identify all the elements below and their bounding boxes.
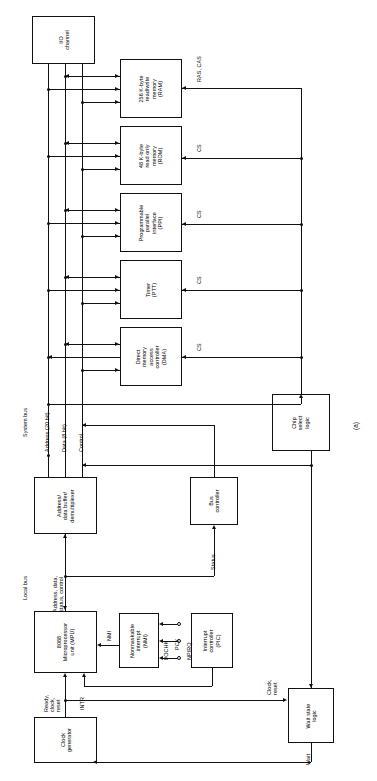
block-mpu-8088: 8088 Microprocessor unit (MPU) [34,611,97,673]
iochk-terminal [177,656,181,660]
nmi-wire [101,645,119,646]
timer-address-wire [48,290,120,291]
label-bus-data: Data (8 bit) [61,424,67,452]
rom-data-arrow-right [115,141,119,145]
npirq-wire [163,624,177,625]
block-chip-select-logic-label: Chip select logic [291,415,310,430]
rom-control-tap [81,168,84,171]
ppi-address-arrow [115,221,119,225]
block-bus-controller: Bus controller [190,477,238,525]
block-ppi: Programmable parallel interface (PPI) [120,193,182,252]
cs-rom-wire [182,158,301,159]
cs-timer-arrow [182,288,186,292]
bus-line-control [82,64,83,477]
ram-control-arrow [115,100,119,104]
rom-control-arrow [115,167,119,171]
dma-data-tap [64,343,67,346]
npirq-arrow [159,622,163,626]
timer-data-wire [65,277,120,278]
label-intr: INTR [79,697,85,710]
label-local-bus: Local bus [22,576,28,600]
label-bus-control: Control [78,434,84,452]
dma-control-tap [81,369,84,372]
rom-data-wire [65,143,120,144]
block-diagram-figure: I/O channel 256 K-byte read/write memory… [0,0,377,781]
status-wire-horizontal [65,576,214,577]
block-timer-label: Timer (PTT) [145,282,158,296]
rom-address-tap [47,155,50,158]
rom-control-wire [82,169,120,170]
clock-to-mpu-arrow [63,673,67,677]
ppi-address-tap [47,222,50,225]
cs-dma-arrow [182,355,186,359]
chip-select-trunk [301,88,302,394]
clock-reset-wire [65,700,284,701]
dma-address-wire [48,357,120,358]
ram-address-wire [48,89,120,90]
rom-data-tap [64,142,67,145]
label-wait: Wait [305,754,311,765]
label-bus-address: Address (20 bit) [44,412,50,452]
ram-control-wire [82,102,120,103]
label-local-bus-lines: Address, data, status, control [52,576,64,612]
label-cs-timer: CS [196,276,202,284]
bus-controller-control-arrow [82,423,86,427]
dma-data-wire [65,344,120,345]
cs-dma-tap [300,356,303,359]
dma-control-wire [82,370,120,371]
intr-wire [84,686,212,687]
label-status: Status [210,554,216,570]
buffer-leg-address [48,455,49,477]
ras-cas-wire [182,88,301,89]
address-to-chip-select-tap [47,403,50,406]
ppi-data-tap [64,209,67,212]
ppi-data-arrow-right [115,208,119,212]
ram-control-tap [81,101,84,104]
ppi-control-arrow [115,234,119,238]
cs-rom-tap [300,157,303,160]
dma-data-arrow-right [115,342,119,346]
io-channel-leg-data [65,64,66,68]
block-nmi: Nonmaskable interrupt (NMI) [119,613,159,668]
wait-logic-input-arrow [309,684,313,688]
label-nmi: NMI [106,631,112,641]
cs-timer-wire [182,290,301,291]
wait-arrow [93,760,97,764]
block-dma-label: Direct memory access controller (DMA) [135,345,167,368]
intr-leg-to-mpu [84,677,85,686]
io-channel-leg-control [82,64,83,68]
figure-caption: (a) [352,422,359,430]
block-wait-state-logic: Wait state logic [288,688,334,743]
control-to-wait-arrow [82,463,86,467]
status-arrow [212,525,216,529]
block-io-channel-label: I/O channel [57,30,70,50]
cs-timer-tap [300,289,303,292]
ras-cas-arrow [182,86,186,90]
ppi-control-wire [82,236,120,237]
intr-arrow [82,673,86,677]
block-bus-controller-label: Bus controller [208,489,221,512]
cs-ppi-tap [300,223,303,226]
label-iochk: I/OCHK [163,641,169,660]
rom-address-wire [48,156,120,157]
timer-control-arrow [115,301,119,305]
nmi-arrow [97,643,101,647]
wait-wire [97,762,311,763]
ram-address-tap [47,88,50,91]
label-ready-clock-reset: Ready, clock, reset [43,695,62,712]
clock-to-mpu-wire [65,677,66,717]
timer-data-tap [64,276,67,279]
buffer-leg-data [65,457,66,477]
rom-address-arrow [115,154,119,158]
block-rom: 48 K-byte read only memory (ROM) [120,126,182,185]
buffer-leg-control [82,457,83,477]
block-ram: 256 K-byte read/write memory (RAM) [120,59,182,118]
timer-address-tap [47,289,50,292]
local-bus-to-buffer-arrow [63,534,67,538]
local-bus-line [65,534,66,611]
ram-data-arrow-right [115,74,119,78]
block-ram-label: 256 K-byte read/write memory (RAM) [138,75,164,102]
block-nmi-label: Nonmaskable interrupt (NMI) [129,623,148,657]
cs-dma-wire [182,357,301,358]
block-pic: Interrupt controller (PIC) [191,613,233,668]
